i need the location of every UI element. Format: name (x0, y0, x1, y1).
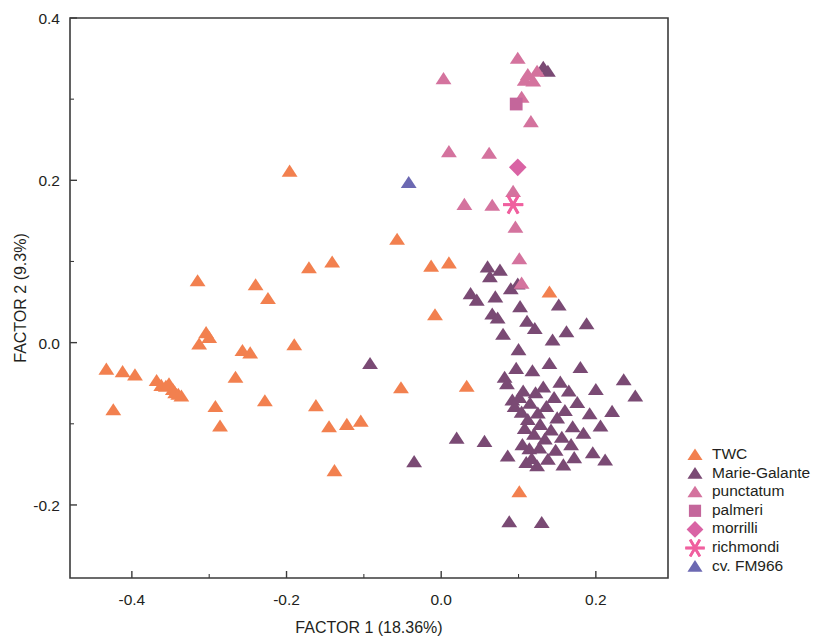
data-point (456, 198, 472, 210)
legend-item-palmeri[interactable]: palmeri (689, 501, 763, 518)
legend-item-twc[interactable]: TWC (687, 445, 747, 462)
legend-item-punctatum[interactable]: punctatum (687, 482, 784, 499)
x-axis: -0.4-0.20.00.2FACTOR 1 (18.36%) (119, 571, 607, 636)
data-point (523, 115, 539, 127)
data-point (487, 290, 503, 302)
data-point (127, 368, 143, 380)
data-point (459, 380, 475, 392)
x-tick-label: -0.2 (273, 591, 300, 608)
y-axis: -0.20.00.20.4FACTOR 2 (9.3%) (12, 10, 77, 514)
x-tick-label: 0.0 (430, 591, 452, 608)
legend-marker-icon (685, 540, 704, 557)
data-point (301, 261, 317, 273)
y-tick-label: 0.2 (38, 172, 60, 189)
legend-item-cv-fm966[interactable]: cv. FM966 (687, 557, 783, 574)
series-cv-fm966 (401, 176, 417, 188)
data-point (508, 362, 524, 374)
data-point (228, 371, 244, 383)
data-point (480, 260, 496, 272)
data-point (481, 147, 497, 159)
data-point (190, 274, 206, 286)
data-point (510, 98, 523, 111)
data-point (321, 420, 337, 432)
legend-item-label: Marie-Galante (712, 464, 810, 481)
series-punctatum (436, 52, 545, 289)
data-point (308, 399, 324, 411)
data-point (401, 176, 417, 188)
data-point (495, 328, 511, 340)
data-point (207, 400, 223, 412)
data-point (500, 449, 516, 461)
data-point (511, 485, 527, 497)
series-richmondi (503, 196, 523, 214)
data-point (545, 333, 561, 345)
series-twc (98, 165, 557, 498)
plot-frame (70, 18, 668, 578)
data-point (604, 405, 620, 417)
data-point (248, 278, 264, 290)
data-point (552, 376, 568, 388)
data-point (542, 285, 558, 297)
legend-item-label: richmondi (712, 538, 779, 555)
data-point (569, 396, 585, 408)
legend-item-marie-galante[interactable]: Marie-Galante (687, 464, 810, 481)
data-point (212, 419, 228, 431)
legend-marker-icon (687, 467, 702, 479)
legend-item-label: TWC (712, 445, 747, 462)
series-marie-galante (362, 61, 643, 528)
data-point (548, 444, 564, 456)
data-point (627, 389, 643, 401)
x-axis-title: FACTOR 1 (18.36%) (295, 619, 442, 636)
data-point (559, 325, 575, 337)
legend-item-morrilli[interactable]: morrilli (687, 519, 758, 537)
data-point (593, 419, 609, 431)
data-point (510, 52, 526, 64)
data-point (515, 385, 531, 397)
data-point (441, 145, 457, 157)
data-point (115, 365, 131, 377)
data-points-layer (98, 52, 643, 528)
data-point (565, 420, 581, 432)
data-point (542, 357, 558, 369)
data-point (406, 455, 422, 467)
data-point (501, 515, 517, 527)
data-point (535, 380, 551, 392)
data-point (588, 383, 604, 395)
data-point (105, 403, 121, 415)
data-point (597, 453, 613, 465)
series-palmeri (510, 98, 523, 111)
data-point (423, 260, 439, 272)
data-point (511, 343, 527, 355)
data-point (551, 298, 567, 310)
data-point (509, 159, 527, 177)
legend-item-label: punctatum (712, 482, 784, 499)
series-morrilli (509, 159, 527, 177)
data-point (257, 394, 273, 406)
y-axis-title: FACTOR 2 (9.3%) (12, 233, 29, 363)
legend-marker-icon (689, 505, 701, 517)
data-point (327, 464, 343, 476)
legend-item-richmondi[interactable]: richmondi (685, 538, 779, 556)
x-tick-label: 0.2 (585, 591, 607, 608)
data-point (353, 415, 369, 427)
data-point (582, 407, 598, 419)
scatter-plot-figure: -0.4-0.20.00.2FACTOR 1 (18.36%)-0.20.00.… (0, 0, 821, 642)
x-tick-label: -0.4 (119, 591, 146, 608)
data-point (503, 196, 523, 214)
data-point (511, 252, 527, 264)
data-point (324, 255, 340, 267)
y-tick-label: -0.2 (33, 497, 60, 514)
data-point (492, 264, 508, 276)
data-point (505, 185, 521, 197)
legend-marker-icon (687, 521, 704, 538)
data-point (427, 308, 443, 320)
data-point (566, 451, 582, 463)
data-point (546, 391, 562, 403)
legend-item-label: morrilli (712, 519, 758, 536)
y-tick-label: 0.0 (38, 335, 60, 352)
legend-marker-icon (687, 486, 702, 498)
data-point (441, 256, 457, 268)
data-point (436, 72, 452, 84)
y-tick-label: 0.4 (38, 10, 60, 27)
data-point (579, 317, 595, 329)
